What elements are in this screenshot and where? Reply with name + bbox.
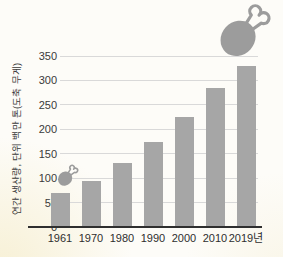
chicken-drumstick-icon-large xyxy=(209,0,274,64)
bar-1961 xyxy=(51,193,70,227)
gridline-300 xyxy=(60,80,258,81)
gridline-250 xyxy=(60,104,258,105)
y-tick-label-250: 250 xyxy=(27,99,57,111)
chart-canvas: 연간 생산량, 단위 백만 톤(도축 무게) 05010015020025030… xyxy=(0,0,283,257)
gridline-200 xyxy=(60,129,258,130)
y-tick-label-150: 150 xyxy=(27,148,57,160)
y-axis-title: 연간 생산량, 단위 백만 톤(도축 무게) xyxy=(9,63,23,216)
bar-2010 xyxy=(206,88,225,227)
x-tick-label-2019: 2019년 xyxy=(224,232,268,245)
y-tick-label-200: 200 xyxy=(27,123,57,135)
bar-1980 xyxy=(113,163,132,227)
x-axis-line xyxy=(28,226,262,228)
y-tick-label-350: 350 xyxy=(27,50,57,62)
bar-2019 xyxy=(237,66,256,227)
bar-2000 xyxy=(175,117,194,227)
bar-1970 xyxy=(82,181,101,227)
bar-1990 xyxy=(144,142,163,228)
chicken-drumstick-icon-small xyxy=(53,163,80,189)
y-tick-label-300: 300 xyxy=(27,74,57,86)
